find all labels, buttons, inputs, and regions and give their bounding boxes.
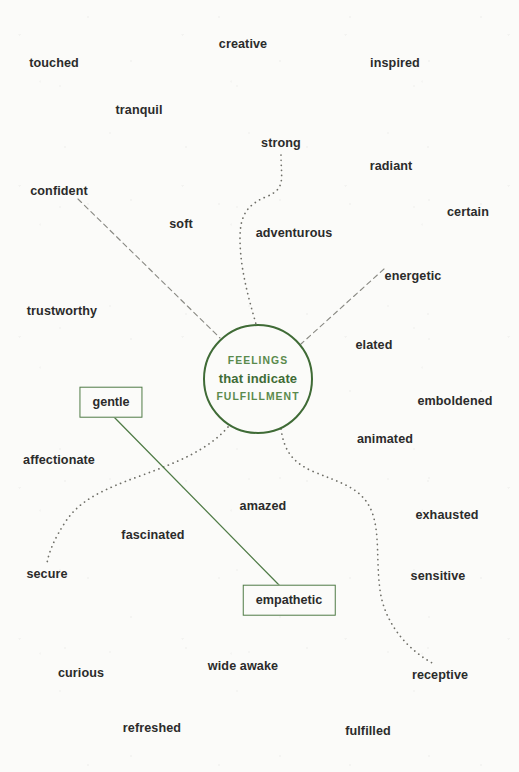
feeling-word: inspired (370, 57, 420, 70)
connector-confident-to-hub (78, 199, 220, 338)
feeling-word: confident (30, 185, 88, 198)
feeling-word: amazed (240, 500, 287, 513)
feeling-word: certain (447, 206, 489, 219)
center-hub: FEELINGS that indicate FULFILLMENT (203, 324, 313, 434)
feeling-word: fascinated (121, 529, 184, 542)
feeling-word: strong (261, 137, 301, 150)
feeling-word: trustworthy (27, 305, 97, 318)
feeling-word: curious (58, 667, 104, 680)
feeling-word: touched (29, 57, 79, 70)
highlighted-feeling-word[interactable]: empathetic (243, 585, 336, 616)
feeling-word: sensitive (411, 570, 466, 583)
feeling-word: fulfilled (345, 725, 391, 738)
mindmap-canvas: FEELINGS that indicate FULFILLMENT creat… (0, 0, 519, 772)
connector-energetic-to-hub (301, 269, 384, 344)
connector-secure-to-hub (47, 427, 228, 563)
feeling-word: wide awake (208, 660, 278, 673)
feeling-word: radiant (370, 160, 413, 173)
feeling-word: emboldened (417, 395, 492, 408)
hub-line-2: that indicate (219, 369, 298, 389)
hub-line-1: FEELINGS (228, 353, 288, 369)
feeling-word: receptive (412, 669, 468, 682)
feeling-word: refreshed (123, 722, 181, 735)
highlighted-feeling-word[interactable]: gentle (79, 387, 142, 418)
feeling-word: affectionate (23, 454, 95, 467)
feeling-word: exhausted (415, 509, 478, 522)
connector-receptive-to-hub (281, 429, 434, 664)
feeling-word: animated (357, 433, 413, 446)
feeling-word: elated (356, 339, 393, 352)
feeling-word: creative (219, 38, 267, 51)
feeling-word: energetic (385, 270, 442, 283)
hub-line-3: FULFILLMENT (216, 389, 299, 405)
feeling-word: tranquil (116, 104, 163, 117)
feeling-word: secure (26, 568, 67, 581)
feeling-word: soft (169, 218, 193, 231)
feeling-word: adventurous (256, 227, 333, 240)
